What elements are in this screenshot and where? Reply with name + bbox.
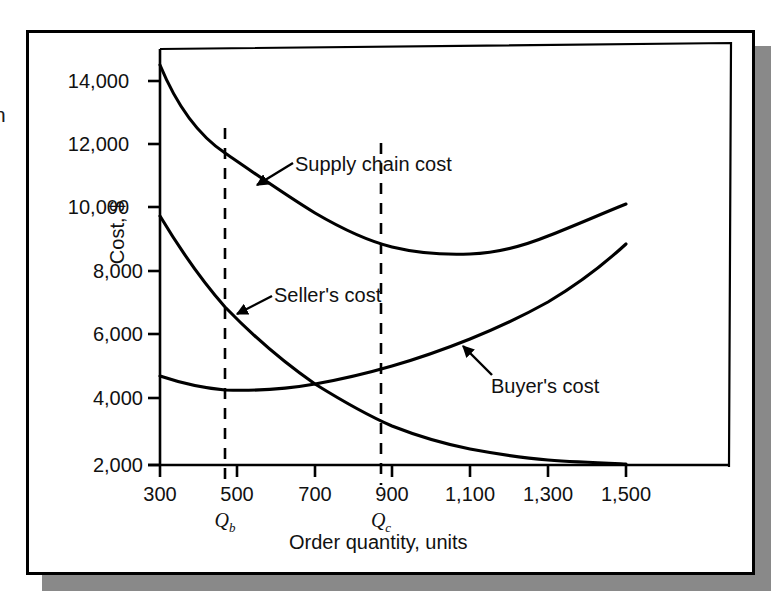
- y-tick-label-4000: 4,000: [47, 387, 143, 410]
- leader-line-sellers-cost: [237, 296, 272, 314]
- y-tick-label-8000: 8,000: [47, 260, 143, 283]
- x-tick-label-1100: 1,100: [430, 483, 510, 506]
- x-tick-label-1500: 1,500: [586, 483, 666, 506]
- y-tick-label-14000: 14,000: [33, 70, 129, 93]
- y-tick-label-2000: 2,000: [47, 454, 143, 477]
- series-line-sellers-cost: [160, 216, 626, 464]
- x-tick-label-300: 300: [120, 483, 200, 506]
- x-axis: [148, 465, 729, 477]
- page-bleed-glyph: n: [0, 103, 6, 127]
- leader-line-supply-chain-cost: [257, 163, 293, 185]
- leader-line-buyers-cost: [463, 346, 492, 375]
- x-axis-title: Order quantity, units: [289, 531, 468, 554]
- y-axis: [148, 49, 160, 466]
- x-tick-label-900: 900: [352, 483, 432, 506]
- y-axis-title: Cost, $: [106, 153, 129, 313]
- annotation-label-qb: Qb: [195, 509, 255, 536]
- x-tick-label-1300: 1,300: [508, 483, 588, 506]
- figure-root: n: [0, 0, 781, 612]
- figure-box: 14,000 12,000 10,000 8,000 6,000 4,000 2…: [26, 30, 755, 575]
- y-tick-label-6000: 6,000: [47, 323, 143, 346]
- series-label-supply-chain-cost: Supply chain cost: [295, 153, 452, 176]
- x-tick-label-500: 500: [197, 483, 277, 506]
- series-label-sellers-cost: Seller's cost: [274, 284, 381, 307]
- series-label-buyers-cost: Buyer's cost: [491, 375, 599, 398]
- series-line-buyers-cost: [160, 244, 626, 390]
- x-tick-label-700: 700: [275, 483, 355, 506]
- plot-area: 14,000 12,000 10,000 8,000 6,000 4,000 2…: [29, 33, 758, 578]
